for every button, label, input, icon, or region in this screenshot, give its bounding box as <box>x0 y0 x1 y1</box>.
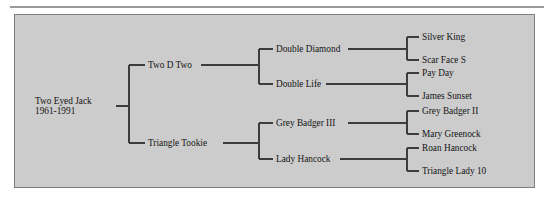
node-two-d-two: Two D Two <box>148 60 192 71</box>
horizontal-rule <box>10 6 544 8</box>
node-two-eyed-jack-dates: 1961-1991 <box>35 106 92 116</box>
node-double-diamond: Double Diamond <box>276 44 340 55</box>
node-pay-day: Pay Day <box>422 68 454 79</box>
node-grey-badger-iii: Grey Badger III <box>276 118 335 129</box>
node-grey-badger-ii: Grey Badger II <box>422 106 478 117</box>
node-triangle-tookie: Triangle Tookie <box>148 138 207 149</box>
node-roan-hancock: Roan Hancock <box>422 143 477 154</box>
node-triangle-lady-10: Triangle Lady 10 <box>422 166 486 177</box>
node-scar-face-s: Scar Face S <box>422 55 466 66</box>
figure-page: Two Eyed Jack 1961-1991 Two D Two Triang… <box>0 0 552 204</box>
node-double-life: Double Life <box>276 79 321 90</box>
node-silver-king: Silver King <box>422 32 465 43</box>
node-two-eyed-jack: Two Eyed Jack 1961-1991 <box>35 96 92 117</box>
node-mary-greenock: Mary Greenock <box>422 129 481 140</box>
pedigree-figure-box: Two Eyed Jack 1961-1991 Two D Two Triang… <box>14 14 535 188</box>
node-james-sunset: James Sunset <box>422 91 472 102</box>
node-two-eyed-jack-name: Two Eyed Jack <box>35 96 92 106</box>
node-lady-hancock: Lady Hancock <box>276 154 330 165</box>
